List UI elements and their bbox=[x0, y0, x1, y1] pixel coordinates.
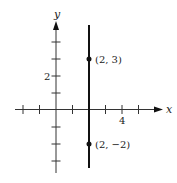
x-tick-label-4: 4 bbox=[119, 115, 125, 126]
y-arrow-icon bbox=[53, 21, 59, 30]
y-axis: y 2 bbox=[44, 8, 61, 173]
point-2-neg2-label: (2, −2) bbox=[95, 139, 130, 150]
point-2-3-label: (2, 3) bbox=[95, 54, 122, 65]
y-tick-label-2: 2 bbox=[44, 71, 50, 82]
point-2-neg2 bbox=[87, 142, 92, 147]
x-arrow-icon bbox=[154, 107, 163, 113]
point-2-3 bbox=[87, 57, 92, 62]
x-axis-label: x bbox=[166, 103, 173, 116]
x-axis: x 4 bbox=[15, 103, 173, 126]
graph: x 4 y 2 (2, 3) (2, −2) bbox=[0, 0, 177, 183]
y-axis-label: y bbox=[53, 8, 61, 21]
